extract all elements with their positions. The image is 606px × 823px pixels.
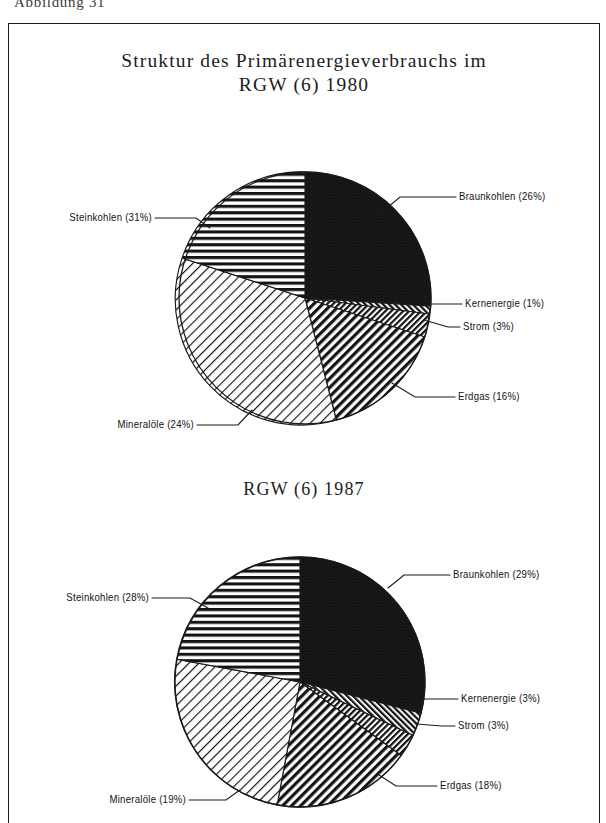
chart-1-title-line-2: RGW (6) 1980 [9, 73, 599, 97]
figure-caption: Abbildung 31 [14, 0, 105, 11]
chart-1-label-steinkohlen: Steinkohlen (31%) [0, 211, 152, 223]
chart-2-label-mineraloele: Mineralöle (19%) [0, 793, 186, 805]
chart-1-label-erdgas: Erdgas (16%) [458, 390, 520, 402]
chart-2-label-erdgas: Erdgas (18%) [440, 779, 502, 791]
chart-1-title-line-1: Struktur des Primärenergieverbrauchs im [9, 49, 599, 73]
chart-2-title: RGW (6) 1987 [9, 479, 599, 501]
chart-1-title: Struktur des Primärenergieverbrauchs im … [9, 49, 599, 97]
chart-2-title-line-1: RGW (6) 1987 [9, 479, 599, 501]
chart-2-label-steinkohlen: Steinkohlen (28%) [0, 591, 149, 603]
chart-1-label-braunkohlen: Braunkohlen (26%) [459, 190, 545, 202]
chart-1-label-strom: Strom (3%) [463, 320, 514, 332]
chart-2-label-strom: Strom (3%) [458, 719, 509, 731]
chart-1-label-kernenergie: Kernenergie (1%) [465, 297, 544, 309]
chart-2-label-braunkohlen: Braunkohlen (29%) [453, 568, 539, 580]
chart-1-label-mineraloele: Mineralöle (24%) [0, 418, 194, 430]
chart-2-label-kernenergie: Kernenergie (3%) [461, 692, 540, 704]
